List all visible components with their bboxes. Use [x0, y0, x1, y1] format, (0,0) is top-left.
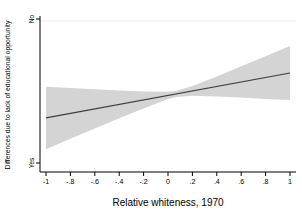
confidence-band	[46, 46, 290, 149]
x-tick-label: -.2	[140, 178, 148, 185]
x-tick-label: .2	[189, 178, 195, 185]
confidence-band-layer	[46, 46, 290, 149]
x-tick-label: -1	[43, 178, 49, 185]
x-tick-label: 0	[166, 178, 170, 185]
regression-plot-figure: -1-.8-.6-.4-.20.2.4.6.81NoYes Relative w…	[0, 0, 302, 220]
y-axis-title: Differences due to lack of educational o…	[4, 20, 12, 169]
x-axis-title: Relative whiteness, 1970	[112, 197, 224, 208]
y-tick-label: No	[28, 14, 35, 23]
x-tick-label: 1	[288, 178, 292, 185]
x-tick-label: .4	[214, 178, 220, 185]
x-tick-label: -.4	[115, 178, 123, 185]
x-tick-label: -.6	[91, 178, 99, 185]
plot-canvas: -1-.8-.6-.4-.20.2.4.6.81NoYes Relative w…	[0, 0, 302, 220]
x-tick-label: -.8	[66, 178, 74, 185]
x-tick-label: .8	[263, 178, 269, 185]
x-tick-label: .6	[238, 178, 244, 185]
y-tick-label: Yes	[28, 157, 35, 168]
